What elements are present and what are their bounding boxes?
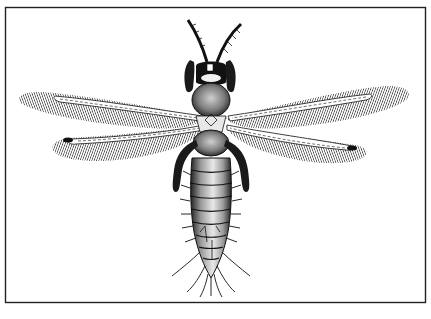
thorax — [192, 83, 230, 117]
insect-illustration — [0, 0, 431, 319]
illustration-canvas — [0, 0, 431, 319]
right-fore-wing — [226, 86, 409, 129]
right-hind-wing — [226, 125, 367, 163]
metathorax — [193, 130, 229, 156]
left-fore-wing — [19, 92, 205, 129]
abdomen — [190, 158, 232, 278]
antennae — [188, 20, 241, 62]
